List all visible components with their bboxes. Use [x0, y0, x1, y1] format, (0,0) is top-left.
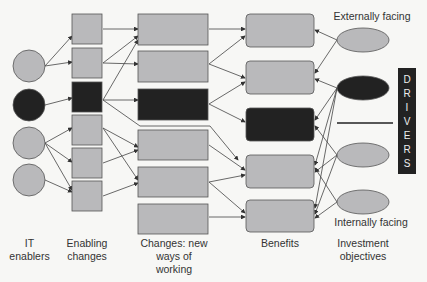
internally-facing-label: Internally facing	[323, 216, 419, 229]
change-node	[138, 51, 208, 82]
it-enabler-node	[13, 164, 45, 196]
change-node	[138, 130, 208, 160]
benefit-node	[246, 108, 314, 141]
drivers-letter: R	[403, 88, 410, 99]
benefit-node	[246, 14, 314, 47]
objective-node	[337, 28, 389, 52]
enabling-change-node	[72, 181, 102, 211]
benefit-node	[246, 61, 314, 94]
enabling-change-node	[72, 14, 102, 44]
drivers-letter: R	[403, 144, 410, 155]
it-enabler-node	[13, 127, 45, 159]
drivers-letter: V	[404, 116, 411, 127]
column-label-investment-objectives: Investment objectives	[330, 237, 396, 263]
drivers-letter: E	[404, 130, 411, 141]
drivers-letter: D	[403, 74, 410, 85]
column-label-benefits: Benefits	[250, 237, 310, 250]
benefit-node	[246, 200, 314, 232]
column-label-enabling-changes: Enabling changes	[58, 237, 116, 263]
it-enabler-node	[13, 89, 45, 121]
it-enabler-node	[13, 50, 45, 82]
enabling-change-node	[72, 115, 102, 145]
drivers-letter: I	[406, 102, 409, 113]
change-node	[138, 167, 208, 197]
drivers-bar: D R I V E R S	[398, 68, 416, 174]
enabling-change-node	[72, 48, 102, 78]
objective-node	[337, 190, 389, 214]
objective-node	[337, 76, 389, 100]
column-label-it-enablers: IT enablers	[2, 237, 57, 263]
enabling-change-node	[72, 148, 102, 178]
objective-node	[337, 143, 389, 167]
enabling-change-node	[72, 82, 102, 112]
externally-facing-label: Externally facing	[322, 10, 422, 23]
change-node	[138, 204, 208, 234]
change-node	[138, 14, 208, 45]
drivers-letter: S	[404, 158, 411, 169]
benefit-node	[246, 155, 314, 188]
change-node	[138, 89, 208, 120]
column-label-changes: Changes: new ways of working	[135, 237, 213, 276]
